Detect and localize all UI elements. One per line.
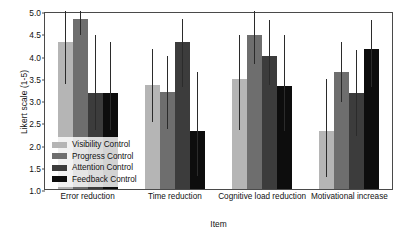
x-axis-tick-label: Motivational increase (311, 192, 388, 201)
error-bar (80, 11, 81, 35)
error-bar (341, 42, 342, 103)
bar-slot (262, 13, 277, 189)
bar-chart-figure: Likert scale (1-5) Item 1.01.52.02.53.03… (0, 0, 406, 244)
y-axis-tick-label: 3.5 (29, 75, 41, 85)
legend-item[interactable]: Feedback Control (52, 174, 137, 186)
y-axis-tick-label: 4.5 (29, 30, 41, 40)
x-axis-tick-label: Time reduction (148, 192, 202, 201)
bar-group (305, 13, 392, 189)
x-axis-tick-label: Error reduction (61, 192, 115, 201)
error-bar (167, 56, 168, 129)
error-bar (182, 19, 183, 87)
bar-slot (190, 13, 205, 189)
y-axis-tick-label: 4.0 (29, 53, 41, 63)
bar-slot (334, 13, 349, 189)
plot-area: 1.01.52.02.53.03.54.04.55.0 Visibility C… (44, 12, 393, 190)
bar-slot (175, 13, 190, 189)
bar-slot (160, 13, 175, 189)
legend-label: Attention Control (72, 163, 133, 172)
error-bar (152, 49, 153, 122)
error-bar (269, 20, 270, 85)
legend-swatch-icon (52, 153, 67, 159)
error-bar (65, 11, 66, 84)
error-bar (197, 72, 198, 175)
bar-slot (277, 13, 292, 189)
bar-slot (247, 13, 262, 189)
legend-item[interactable]: Progress Control (52, 151, 137, 163)
y-axis-tick-label: 1.0 (29, 186, 41, 196)
legend-swatch-icon (52, 176, 67, 182)
x-axis-tick-label: Cognitive load reduction (218, 192, 306, 201)
x-axis-title: Item (44, 219, 393, 229)
bar-slot (319, 13, 334, 189)
bar-slot (232, 13, 247, 189)
legend-swatch-icon (52, 142, 67, 148)
legend-item[interactable]: Visibility Control (52, 139, 137, 151)
error-bar (356, 50, 357, 136)
y-axis-tick-label: 2.5 (29, 119, 41, 129)
bar-group (132, 13, 219, 189)
y-axis-tick-label: 5.0 (29, 8, 41, 18)
bar-slot (349, 13, 364, 189)
error-bar (239, 35, 240, 131)
legend-label: Progress Control (72, 152, 133, 161)
legend-item[interactable]: Attention Control (52, 162, 137, 174)
y-axis-tick-label: 2.0 (29, 142, 41, 152)
error-bar (254, 11, 255, 64)
error-bar (95, 35, 96, 130)
chart-legend: Visibility ControlProgress ControlAttent… (50, 137, 140, 187)
error-bar (110, 42, 111, 130)
error-bar (284, 35, 285, 132)
y-axis-title: Likert scale (1-5) (19, 32, 29, 172)
bar-slot (364, 13, 379, 189)
bar-group (219, 13, 306, 189)
error-bar (371, 20, 372, 87)
error-bar (326, 79, 327, 176)
legend-label: Feedback Control (72, 175, 137, 184)
y-axis-tick-label: 1.5 (29, 164, 41, 174)
bar-slot (145, 13, 160, 189)
legend-label: Visibility Control (72, 140, 130, 149)
legend-swatch-icon (52, 165, 67, 171)
y-axis-tick-label: 3.0 (29, 97, 41, 107)
y-axis-tick-mark (42, 191, 45, 192)
